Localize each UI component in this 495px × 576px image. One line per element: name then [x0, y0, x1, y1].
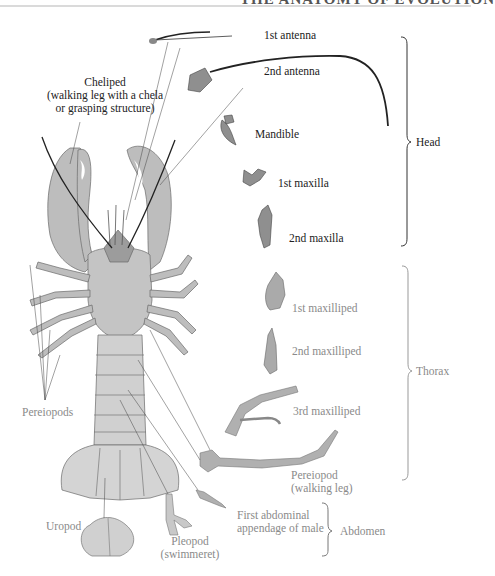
second-maxilliped-label: 2nd maxilliped: [292, 345, 361, 358]
pleopod-label-line1: Pleopod: [150, 535, 230, 548]
first-antenna-drawing: [149, 32, 232, 44]
pereiopod-drawing: [200, 430, 338, 472]
cheliped-label-line2: (walking leg with a chela: [30, 89, 180, 102]
first-abdominal-label-line2: appendage of male: [237, 522, 324, 535]
pereiopod-label-line1: Pereiopod: [291, 469, 353, 482]
abdomen: [94, 335, 146, 445]
mandible-drawing: [221, 115, 236, 145]
uropod-drawing: [81, 518, 133, 557]
pleopod-label-line2: (swimmeret): [150, 548, 230, 561]
cheliped-label-line1: Cheliped: [30, 76, 180, 89]
cheliped-label-line3: or grasping structure): [30, 102, 180, 115]
lobster-body: [30, 146, 198, 500]
cheliped-label: Cheliped (walking leg with a chela or gr…: [30, 76, 180, 115]
thorax-region-label: Thorax: [416, 365, 449, 378]
second-antenna-label: 2nd antenna: [264, 65, 320, 78]
third-maxilliped-drawing: [225, 386, 298, 436]
first-maxilliped-label: 1st maxilliped: [292, 302, 357, 315]
pereiopod-label-line2: (walking leg): [291, 482, 353, 495]
first-maxilliped-drawing: [266, 272, 285, 310]
first-abdominal-label-line1: First abdominal: [237, 509, 324, 522]
head-brace: [401, 37, 411, 246]
first-maxilla-label: 1st maxilla: [278, 177, 329, 190]
left-walking-legs: [30, 262, 96, 358]
second-maxilla-label: 2nd maxilla: [289, 232, 344, 245]
uropod-label: Uropod: [46, 520, 81, 533]
pleopod-drawing: [166, 494, 192, 535]
first-maxilla-drawing: [243, 169, 266, 186]
head-region-label: Head: [416, 136, 440, 149]
second-maxilliped-drawing: [264, 328, 277, 374]
thorax-brace: [402, 266, 412, 480]
first-abdominal-appendage-label: First abdominal appendage of male: [237, 509, 324, 535]
pereiopod-walking-leg-label: Pereiopod (walking leg): [291, 469, 353, 495]
pereiopods-label: Pereiopods: [22, 406, 73, 419]
first-antenna-label: 1st antenna: [264, 29, 316, 42]
second-maxilla-drawing: [258, 205, 272, 248]
third-maxilliped-label: 3rd maxilliped: [293, 405, 360, 418]
abdomen-region-label: Abdomen: [340, 525, 385, 538]
pleopod-label: Pleopod (swimmeret): [150, 535, 230, 561]
mandible-label: Mandible: [255, 128, 299, 141]
first-abdominal-appendage-drawing: [196, 490, 226, 508]
right-walking-legs: [144, 255, 198, 355]
